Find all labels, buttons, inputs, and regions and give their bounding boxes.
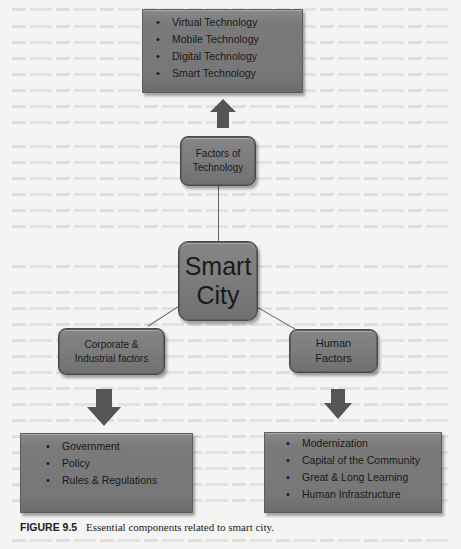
central-label: Smart — [185, 252, 252, 281]
corporate-items-list: Government Policy Rules & Regulations — [20, 438, 193, 489]
technology-items-list: Virtual Technology Mobile Technology Dig… — [142, 14, 303, 82]
node-label: Human — [315, 336, 352, 351]
node-label: Technology — [193, 161, 244, 175]
list-item: Rules & Regulations — [62, 472, 193, 489]
corporate-items-box: Government Policy Rules & Regulations — [20, 433, 193, 513]
human-factors-node: Human Factors — [289, 329, 378, 373]
list-item: Policy — [62, 455, 193, 472]
list-item: Government — [62, 438, 193, 455]
corporate-industrial-factors-node: Corporate & Industrial factors — [58, 328, 165, 375]
arrow-up-icon — [210, 99, 236, 128]
node-label: Factors — [315, 351, 352, 366]
list-item: Mobile Technology — [172, 31, 303, 48]
list-item: Great & Long Learning — [302, 469, 442, 486]
list-item: Capital of the Community — [302, 452, 442, 469]
human-items-list: Modernization Capital of the Community G… — [264, 435, 442, 503]
human-items-box: Modernization Capital of the Community G… — [264, 432, 442, 513]
node-label: Corporate & — [75, 338, 148, 352]
list-item: Digital Technology — [172, 48, 303, 65]
smart-city-node: Smart City — [178, 241, 258, 321]
connector-tech-to-city — [218, 185, 219, 241]
arrow-down-icon — [87, 389, 121, 426]
node-label: Factors of — [193, 147, 244, 161]
figure-number: FIGURE 9.5 — [20, 521, 77, 533]
figure-caption: FIGURE 9.5 Essential components related … — [20, 521, 274, 533]
list-item: Smart Technology — [172, 65, 303, 82]
central-label: City — [185, 281, 252, 310]
list-item: Virtual Technology — [172, 14, 303, 31]
caption-text: Essential components related to smart ci… — [86, 521, 274, 533]
arrow-down-icon — [324, 389, 352, 419]
list-item: Modernization — [302, 435, 442, 452]
factors-of-technology-node: Factors of Technology — [180, 136, 256, 186]
list-item: Human Infrastructure — [302, 486, 442, 503]
technology-items-box: Virtual Technology Mobile Technology Dig… — [142, 9, 303, 93]
node-label: Industrial factors — [75, 352, 148, 366]
